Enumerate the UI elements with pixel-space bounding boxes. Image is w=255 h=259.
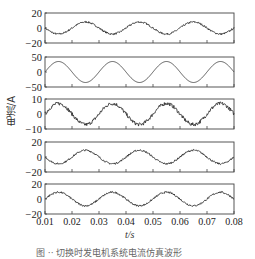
panel-5: 200−20 [26, 179, 234, 220]
x-tick-label: 0.04 [117, 216, 135, 227]
panel-4: 200−20 [26, 137, 234, 178]
x-tick-label: 0.07 [198, 216, 216, 227]
x-tick-label: 0.02 [63, 216, 81, 227]
y-tick-label: 0 [37, 152, 42, 163]
waveform-line [45, 102, 234, 126]
x-tick-label: 0.01 [36, 216, 54, 227]
y-tick-label: 20 [32, 179, 43, 190]
y-tick-label: 20 [32, 137, 43, 148]
waveform-line [45, 21, 234, 35]
waveform-line [45, 191, 234, 206]
panel-2: 500−50 [26, 52, 234, 93]
y-tick-label: −20 [26, 167, 42, 178]
panel-3: 100−10 [26, 94, 234, 135]
panel-1: 200−20 [26, 8, 234, 49]
y-tick-label: 10 [32, 94, 43, 105]
y-axis-label: 电流/A [4, 96, 18, 126]
plot-frame [45, 184, 234, 214]
waveform-line [45, 149, 234, 164]
y-tick-label: 50 [32, 52, 43, 63]
y-tick-label: −10 [26, 124, 42, 135]
x-tick-label: 0.06 [171, 216, 189, 227]
y-tick-label: 20 [32, 8, 43, 19]
y-tick-label: 0 [37, 109, 42, 120]
y-tick-label: −50 [26, 82, 42, 93]
y-tick-label: 0 [37, 194, 42, 205]
x-axis-label: t/s [125, 229, 134, 240]
y-tick-label: −20 [26, 38, 42, 49]
plot-frame [45, 99, 234, 129]
waveform-line [45, 62, 234, 83]
x-tick-label: 0.03 [90, 216, 108, 227]
y-tick-label: 0 [37, 23, 42, 34]
x-tick-label: 0.08 [225, 216, 243, 227]
y-tick-label: 0 [37, 67, 42, 78]
x-tick-label: 0.05 [144, 216, 162, 227]
figure-caption: 图 ·· 切换时发电机系统电流仿真波形 [36, 246, 236, 259]
